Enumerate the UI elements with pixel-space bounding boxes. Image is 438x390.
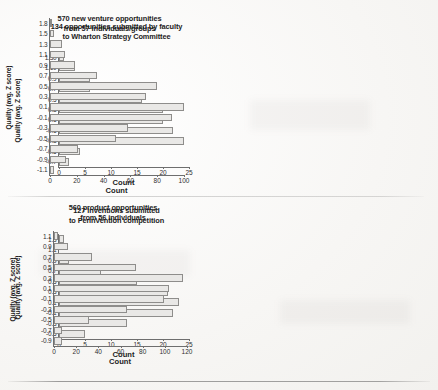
y-tick-label: 1.5 (39, 30, 47, 37)
bar (50, 30, 54, 38)
y-tick-label: 0.5 (39, 83, 47, 90)
x-axis-label-new-venture-opportunities: Count (49, 186, 184, 195)
y-tick-label: 1.1 (39, 51, 47, 58)
y-tick-label: 1.3 (39, 41, 47, 48)
bar (50, 72, 97, 80)
bar-row: 0.9 (54, 241, 187, 251)
bar-row: 0.7 (54, 252, 187, 262)
x-tick-label: 100 (179, 177, 190, 184)
x-tick-label: 40 (100, 177, 107, 184)
bar (50, 124, 128, 132)
bar-row: 0.1 (54, 283, 187, 293)
x-tick-label: 25 (185, 169, 192, 176)
bar-row: 1.5 (50, 28, 184, 38)
chart-panel-new-venture-opportunities (219, 0, 438, 195)
y-axis-label-product-opportunities: Quality (avg. Z score) (9, 257, 16, 321)
bar-row: -0.9 (54, 336, 187, 346)
chart-title-product-opportunities: 560 product opportunitiesfrom 56 individ… (11, 203, 215, 223)
x-tick-label: 0 (52, 348, 56, 355)
bar-row: -0.3 (54, 304, 187, 314)
bar-rows: 1.10.90.70.50.30.1-0.1-0.3-0.5-0.7-0.9 (54, 231, 187, 346)
x-axis-label-product-opportunities: Count (53, 357, 187, 366)
y-tick-label: -0.9 (41, 337, 51, 344)
figure-page: 134 opportunities submitted by facultyto… (0, 0, 438, 390)
bar-row: 1.8 (50, 18, 184, 28)
page-footer-rule (8, 381, 430, 382)
chart-title-line: 560 product opportunities (11, 203, 215, 213)
bar-row: -1.1 (50, 165, 184, 175)
bar (54, 295, 164, 303)
bar-row: -0.3 (50, 123, 184, 133)
bar (50, 103, 184, 111)
y-tick-label: 0.5 (43, 264, 51, 271)
bar-row: -0.1 (54, 294, 187, 304)
bar (50, 82, 157, 90)
bar (54, 264, 136, 272)
bar-row: 1.1 (54, 231, 187, 241)
bar-row: 0.5 (54, 262, 187, 272)
bar-row: 0.5 (50, 81, 184, 91)
bar-row: 0.1 (50, 102, 184, 112)
bar-row: -0.5 (54, 315, 187, 325)
y-tick-label: -0.5 (37, 135, 47, 142)
bar-row: -0.5 (50, 133, 184, 143)
bar (50, 93, 146, 101)
bar (54, 316, 89, 324)
bar-row: 0.7 (50, 70, 184, 80)
y-tick-label: 0.7 (43, 254, 51, 261)
y-tick-label: 0.1 (39, 103, 47, 110)
y-axis-label-new-venture-opportunities: Quality (avg. Z score) (5, 65, 12, 129)
x-tick-label: 20 (73, 177, 80, 184)
bar-row: 1.1 (50, 49, 184, 59)
bar (54, 285, 169, 293)
bar-row: 0.3 (54, 273, 187, 283)
chart-panel-product-opportunities (219, 195, 438, 390)
y-tick-label: 0.7 (39, 72, 47, 79)
bar-row: -0.7 (50, 144, 184, 154)
bar (54, 243, 68, 251)
y-tick-label: -0.5 (41, 316, 51, 323)
bar (54, 232, 58, 240)
plot-area-product-opportunities: 1.10.90.70.50.30.1-0.1-0.3-0.5-0.7-0.902… (53, 231, 187, 347)
y-tick-label: 1.8 (39, 20, 47, 27)
y-tick-label: 0.9 (39, 62, 47, 69)
bar (54, 327, 62, 335)
x-tick-label: 120 (182, 348, 193, 355)
x-tick-label: 60 (117, 348, 124, 355)
bar (50, 114, 172, 122)
y-tick-label: 0.3 (39, 93, 47, 100)
bar-row: -0.9 (50, 154, 184, 164)
y-tick-label: -0.9 (37, 156, 47, 163)
bar (50, 40, 62, 48)
x-tick-label: 20 (73, 348, 80, 355)
bar-rows: 1.81.51.31.10.90.70.50.30.1-0.1-0.3-0.5-… (50, 18, 184, 175)
x-tick-label: 60 (127, 177, 134, 184)
bar (50, 51, 65, 59)
y-axis-label-wharton-strategy-committee: Quality (avg. Z score) (14, 78, 21, 142)
y-tick-label: -0.3 (37, 124, 47, 131)
chart-title-line: from 56 individuals (11, 213, 215, 223)
bar (54, 306, 127, 314)
y-tick-label: -0.1 (41, 295, 51, 302)
page-divider-rule (8, 196, 424, 197)
bar (50, 145, 78, 153)
bar (50, 156, 66, 164)
y-tick-label: -0.7 (37, 145, 47, 152)
y-tick-label: -0.1 (37, 114, 47, 121)
bar (54, 253, 92, 261)
x-tick-label: 80 (154, 177, 161, 184)
y-tick-label: 1.1 (43, 233, 51, 240)
y-tick-label: -0.3 (41, 306, 51, 313)
y-tick-label: 0.1 (43, 285, 51, 292)
y-tick-label: 0.3 (43, 275, 51, 282)
bar (50, 61, 75, 69)
y-tick-label: -0.7 (41, 327, 51, 334)
bar-row: 1.3 (50, 39, 184, 49)
plot-area-new-venture-opportunities: 1.81.51.31.10.90.70.50.30.1-0.1-0.3-0.5-… (49, 18, 184, 176)
bar-row: 0.9 (50, 60, 184, 70)
x-tick-label: 0 (48, 177, 52, 184)
bar (50, 19, 52, 27)
bar (50, 135, 116, 143)
bar (50, 166, 54, 174)
bar (54, 337, 62, 345)
